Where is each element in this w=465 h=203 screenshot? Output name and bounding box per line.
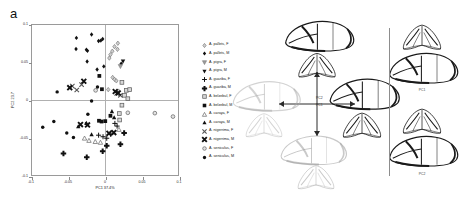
scatter-point: [95, 67, 98, 71]
legend-symbol-icon: [200, 127, 209, 136]
legend-label: A. pigra, M: [209, 69, 227, 73]
legend-label: A. belzebul, M: [209, 104, 232, 108]
legend-label: A. pallets, M: [209, 52, 229, 56]
legend-symbol-icon: [200, 84, 209, 93]
scatter-markers-layer: [32, 25, 180, 177]
scatter-point: [102, 64, 105, 68]
scatter-point: [117, 112, 121, 116]
x-tick-label: -0.1: [28, 180, 34, 184]
scatter-point: [126, 97, 130, 101]
scatter-point: [107, 87, 110, 91]
scatter-point: [116, 47, 119, 51]
skull-lateral-outline: [233, 82, 300, 111]
legend-symbol-icon: [200, 75, 209, 84]
right-bottom-sub-label: PC2: [419, 172, 426, 176]
legend-symbol-icon: [200, 67, 209, 76]
scatter-point: [100, 120, 104, 124]
scatter-point: [55, 90, 58, 93]
legend-symbol-icon: [200, 153, 209, 162]
skull-dorsal-outline: [403, 25, 440, 49]
scatter-point: [120, 81, 124, 85]
x-tick: [106, 177, 107, 180]
y-tick: [29, 139, 32, 140]
scatter-point: [94, 88, 98, 92]
legend-symbol-icon: [200, 93, 209, 102]
scatter-point: [41, 126, 44, 129]
scatter-point: [104, 143, 110, 149]
legend-symbol-icon: [200, 41, 209, 50]
skull-dorsal-outline: [246, 114, 282, 137]
y-tick: [29, 177, 32, 178]
scatter-plot-area: [31, 24, 179, 176]
right-top-sub-label: PC1: [419, 88, 426, 92]
skull-lateral-outline: [286, 21, 354, 51]
scatter-point: [116, 41, 119, 45]
scatter-point: [121, 130, 127, 136]
y-tick-label: 0.1: [12, 22, 28, 26]
skull-dorsal-outline: [403, 109, 440, 133]
pc1-axis-label: PC1: [316, 103, 323, 107]
scatter-point: [100, 148, 106, 154]
y-tick-label: -0.1: [12, 174, 28, 178]
legend-label: A. pallets, F: [209, 43, 228, 47]
y-tick: [29, 63, 32, 64]
legend-label: A. caraya, F: [209, 112, 229, 116]
legend-symbol-icon: [200, 136, 209, 145]
legend-symbol-icon: [200, 101, 209, 110]
y-tick-label: -0.05: [12, 136, 28, 140]
legend-label: A. pigra, F: [209, 61, 226, 65]
scatter-point: [85, 59, 88, 63]
scatter-point: [89, 132, 93, 136]
scatter-point: [109, 114, 113, 118]
scatter-point: [61, 151, 66, 157]
scatter-point: [87, 138, 91, 142]
scatter-point: [97, 74, 101, 78]
scatter-point: [100, 87, 104, 91]
x-tick-label: 0.05: [139, 180, 146, 184]
y-axis-title: PC2 23.7: [11, 92, 15, 108]
skull-dorsal-outline: [298, 166, 334, 189]
legend-label: A. guariba, F: [209, 78, 230, 82]
scatter-point: [75, 88, 79, 92]
scatter-point: [82, 136, 86, 140]
x-axis-title: PC1 37.4%: [95, 186, 114, 190]
figure-root: a -0.1-0.0500.050.1 0.10.050-0.05-0.1 PC…: [0, 0, 465, 203]
scatter-point: [90, 32, 93, 36]
legend-label: A. seniculus, M: [209, 155, 234, 159]
y-tick: [29, 101, 32, 102]
scatter-point: [118, 65, 122, 69]
skull-lateral-outline: [390, 53, 458, 83]
legend-label: A. seniculus, F: [209, 147, 233, 151]
x-tick-label: 0.1: [177, 180, 182, 184]
scatter-point: [126, 111, 130, 115]
legend-label: A. nigerrima, M: [209, 138, 234, 142]
scatter-point: [86, 113, 89, 116]
scatter-point: [72, 136, 75, 139]
panel-b: b PC2 PC1 PC1 PC2: [232, 0, 465, 203]
panel-b-divider: [389, 28, 390, 176]
panel-a-letter: a: [10, 6, 17, 21]
scatter-point: [90, 99, 93, 102]
skull-deformation-diagram: [232, 0, 465, 203]
scatter-point: [103, 119, 107, 123]
scatter-point: [118, 142, 124, 148]
scatter-point: [118, 118, 122, 122]
legend-label: A. belzebul, F: [209, 95, 232, 99]
scatter-point: [112, 115, 116, 119]
scatter-point: [96, 85, 99, 88]
scatter-point: [74, 47, 77, 51]
scatter-point: [84, 154, 90, 160]
legend-symbol-icon: [200, 118, 209, 127]
scatter-point: [65, 131, 68, 134]
scatter-point: [96, 133, 101, 138]
scatter-point: [98, 140, 102, 144]
skull-dorsal-outline: [299, 53, 335, 77]
skull-lateral-outline: [390, 136, 458, 166]
legend-symbol-icon: [200, 58, 209, 67]
scatter-point: [171, 115, 175, 119]
scatter-point: [128, 88, 132, 92]
scatter-point: [120, 103, 124, 107]
scatter-point: [110, 109, 114, 113]
x-tick-label: -0.05: [64, 180, 72, 184]
legend-label: A. nigerrima, F: [209, 129, 233, 133]
